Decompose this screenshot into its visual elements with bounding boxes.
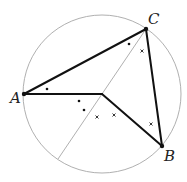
geometry-diagram: A B C <box>0 0 187 182</box>
vertex-a <box>22 92 26 96</box>
angle-cross-mark <box>96 116 99 119</box>
edge-cb <box>146 29 162 146</box>
angle-dot-mark <box>78 100 81 103</box>
angle-dot-mark <box>128 43 131 46</box>
center-segments <box>24 94 162 146</box>
angle-cross-mark <box>141 50 144 53</box>
edge-ac <box>24 29 146 94</box>
label-b: B <box>163 147 175 165</box>
label-a: A <box>8 89 21 107</box>
angle-cross-mark <box>150 123 153 126</box>
diagram-canvas: A B C <box>0 0 187 182</box>
segment-ob <box>102 94 162 146</box>
angle-dot-mark <box>83 109 86 112</box>
angle-dot-mark <box>46 88 49 91</box>
label-c: C <box>148 10 160 28</box>
angle-cross-mark <box>113 114 116 117</box>
